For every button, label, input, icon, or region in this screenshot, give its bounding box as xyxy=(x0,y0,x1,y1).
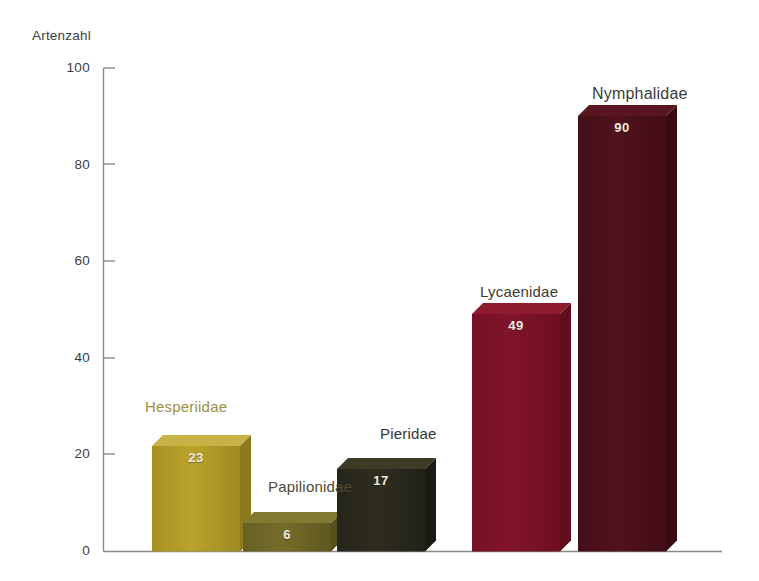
bar-chart: Artenzahl 100 80 60 40 20 0 xyxy=(0,0,759,581)
bar-value-nymphalidae: 90 xyxy=(578,120,666,135)
bar-label-pieridae: Pieridae xyxy=(380,425,437,442)
bar-label-lycaenidae: Lycaenidae xyxy=(480,283,558,300)
bar-label-nymphalidae: Nymphalidae xyxy=(592,85,688,103)
bar-nymphalidae xyxy=(578,105,677,552)
bar-value-pieridae: 17 xyxy=(337,473,425,488)
bar-value-papilionidae: 6 xyxy=(243,527,331,542)
bar-value-lycaenidae: 49 xyxy=(472,318,560,333)
bar-lycaenidae xyxy=(472,303,571,552)
bar-value-hesperiidae: 23 xyxy=(152,450,240,465)
bar-label-hesperiidae: Hesperiidae xyxy=(145,398,227,415)
